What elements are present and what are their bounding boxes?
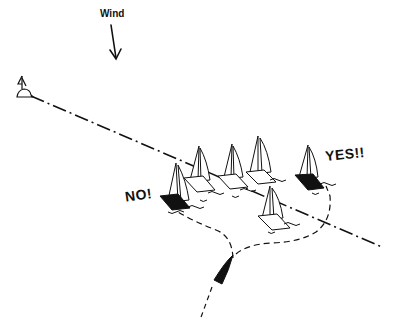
sailboat xyxy=(184,146,224,202)
wind-arrow-icon xyxy=(110,25,121,59)
approach-wake xyxy=(200,287,212,320)
course-to-no xyxy=(178,212,233,258)
sailboat xyxy=(246,136,286,184)
approaching-boat xyxy=(214,255,233,284)
buoy-icon xyxy=(17,76,33,97)
diagram-canvas xyxy=(0,0,395,329)
wind-label: Wind xyxy=(100,8,124,19)
sailboat xyxy=(258,186,300,234)
sailing-diagram: Wind NO! YES!! xyxy=(0,0,395,329)
